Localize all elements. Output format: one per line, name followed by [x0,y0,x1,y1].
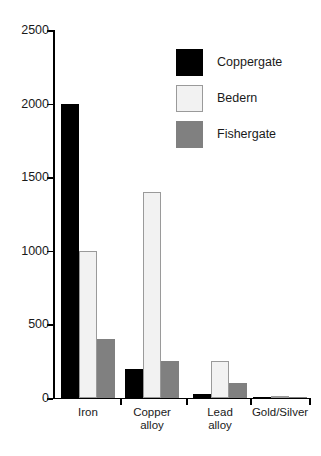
legend-label-bedern: Bedern [217,92,257,105]
bar-coppergate-3 [253,397,271,398]
bar-chart: 05001000150020002500 IronCopper alloyLea… [0,0,321,456]
y-axis-tick-label: 0 [42,392,49,405]
x-axis-separator-tick [186,398,188,405]
x-axis-separator-tick [250,398,252,405]
legend-item-fishergate: Fishergate [176,116,282,152]
bar-bedern-1 [143,192,161,398]
legend-item-bedern: Bedern [176,80,282,116]
legend-label-fishergate: Fishergate [217,128,276,141]
legend-swatch-bedern [176,85,203,112]
legend-swatch-coppergate [176,49,203,76]
bar-fishergate-1 [161,361,179,398]
legend-swatch-fishergate [176,121,203,148]
y-axis-tick-label: 1000 [21,245,49,258]
bar-bedern-2 [211,361,229,398]
y-axis-tick-label: 1500 [21,171,49,184]
y-axis-tick-label: 2000 [21,97,49,110]
bar-coppergate-1 [125,369,143,398]
legend: CoppergateBedernFishergate [176,44,282,152]
x-axis-separator-tick [309,398,311,405]
x-axis-category-label: Gold/Silver [235,406,321,419]
bar-bedern-0 [79,251,97,398]
bar-fishergate-2 [229,383,247,398]
bar-fishergate-3 [289,397,307,398]
bar-coppergate-2 [193,394,211,398]
legend-label-coppergate: Coppergate [217,56,282,69]
bar-bedern-3 [271,396,289,398]
y-axis-tick-label: 500 [28,318,49,331]
bar-fishergate-0 [97,339,115,398]
x-axis-separator-tick [120,398,122,405]
bar-coppergate-0 [61,104,79,398]
legend-item-coppergate: Coppergate [176,44,282,80]
y-axis-tick-label: 2500 [21,24,49,37]
